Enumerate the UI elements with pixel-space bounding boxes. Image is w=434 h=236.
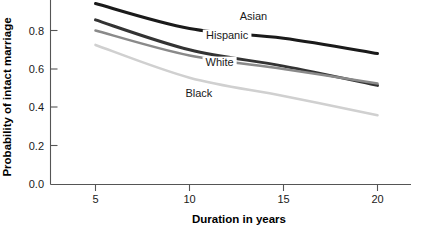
y-tick-label: 0.2	[29, 140, 44, 152]
series-label-asian: Asian	[240, 10, 268, 22]
series-label-hispanic: Hispanic	[206, 29, 249, 41]
series-line-black	[96, 45, 378, 115]
y-axis-title: Probability of intact marriage	[1, 17, 13, 176]
series-label-black: Black	[185, 87, 212, 99]
y-tick-label: 0.4	[29, 101, 44, 113]
x-tick-label: 20	[371, 193, 383, 205]
x-tick-label: 10	[183, 193, 195, 205]
x-axis-title: Duration in years	[192, 213, 286, 225]
y-tick-label: 0.6	[29, 63, 44, 75]
x-tick-label: 5	[92, 193, 98, 205]
line-chart-figure: 0.8 0.6 0.4 0.2 0.0 5 10 15 20 Duration …	[0, 0, 434, 236]
x-tick-label: 15	[277, 193, 289, 205]
chart-canvas: 0.8 0.6 0.4 0.2 0.0 5 10 15 20 Duration …	[0, 0, 434, 236]
y-tick-label: 0.8	[29, 25, 44, 37]
y-tick-label: 0.0	[29, 178, 44, 190]
series-label-white: White	[206, 56, 234, 68]
